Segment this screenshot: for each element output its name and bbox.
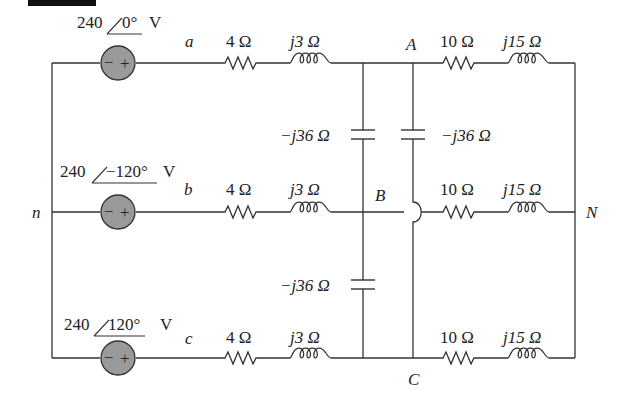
- resistor-line-c: [222, 352, 262, 364]
- source-label-b: 240 −120° V: [60, 162, 176, 183]
- svg-text:240: 240: [60, 162, 86, 181]
- node-label-C: C: [408, 370, 420, 389]
- minus-sign: −: [104, 202, 114, 221]
- cap-label-ab: −j36 Ω: [280, 126, 330, 145]
- plus-sign: +: [120, 203, 130, 222]
- inductor-line-a: [290, 53, 331, 63]
- svg-text:V: V: [163, 162, 176, 181]
- load-r-label-c: 10 Ω: [440, 328, 474, 347]
- cap-label-ac: −j36 Ω: [441, 126, 491, 145]
- svg-text:240: 240: [64, 315, 90, 334]
- voltage-source-a: − +: [101, 46, 135, 80]
- capacitor-bc: [351, 280, 375, 289]
- inductor-line-b: [290, 202, 331, 212]
- inductor-line-c: [290, 348, 331, 358]
- svg-text:V: V: [160, 315, 173, 334]
- plus-sign: +: [120, 349, 130, 368]
- line-x-label-b: j3 Ω: [288, 180, 320, 199]
- voltage-source-c: − +: [101, 341, 135, 375]
- minus-sign: −: [104, 53, 114, 72]
- node-label-c: c: [185, 329, 193, 348]
- load-x-label-a: j15 Ω: [501, 32, 541, 51]
- inductor-load-c: [508, 348, 549, 358]
- plus-sign: +: [120, 54, 130, 73]
- resistor-load-b: [440, 206, 480, 218]
- resistor-load-c: [440, 352, 480, 364]
- load-r-label-b: 10 Ω: [440, 180, 474, 199]
- cap-label-bc: −j36 Ω: [280, 276, 330, 295]
- node-label-N: N: [585, 203, 599, 222]
- line-x-label-a: j3 Ω: [288, 32, 320, 51]
- inductor-load-b: [508, 202, 549, 212]
- load-r-label-a: 10 Ω: [440, 32, 474, 51]
- source-label-c: 240 120° V: [64, 315, 173, 336]
- node-label-b: b: [184, 180, 193, 199]
- voltage-source-b: − +: [101, 195, 135, 229]
- svg-text:0°: 0°: [122, 13, 137, 32]
- node-label-a: a: [185, 32, 194, 51]
- line-r-label-c: 4 Ω: [226, 328, 251, 347]
- minus-sign: −: [104, 348, 114, 367]
- wire-vertical-ac: [413, 63, 421, 358]
- load-x-label-b: j15 Ω: [501, 180, 541, 199]
- capacitor-ab: [351, 130, 375, 139]
- node-label-n: n: [32, 203, 41, 222]
- svg-text:240: 240: [77, 13, 103, 32]
- circuit-diagram: − + − + − + 240 0° V 240 −120° V 240 120…: [0, 0, 621, 408]
- inductor-load-a: [508, 53, 549, 63]
- resistor-load-a: [440, 57, 480, 69]
- capacitor-ac: [401, 130, 425, 139]
- line-x-label-c: j3 Ω: [288, 328, 320, 347]
- resistor-line-a: [222, 57, 262, 69]
- source-label-a: 240 0° V: [77, 13, 162, 34]
- svg-text:−120°: −120°: [106, 162, 148, 181]
- line-r-label-b: 4 Ω: [226, 180, 251, 199]
- svg-text:V: V: [149, 13, 162, 32]
- scan-artifact: [28, 0, 96, 6]
- node-label-B: B: [375, 186, 386, 205]
- node-label-A: A: [405, 35, 417, 54]
- line-r-label-a: 4 Ω: [226, 32, 251, 51]
- svg-text:120°: 120°: [108, 315, 140, 334]
- resistor-line-b: [222, 206, 262, 218]
- load-x-label-c: j15 Ω: [501, 328, 541, 347]
